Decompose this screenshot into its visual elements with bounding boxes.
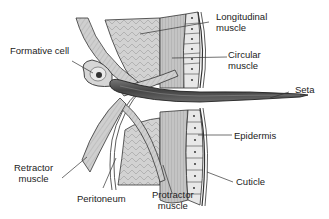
label-retractor-muscle: Retractor muscle: [14, 162, 53, 184]
label-epidermis: Epidermis: [234, 130, 276, 141]
retractor-muscle: [82, 98, 126, 172]
label-longitudinal-muscle-line1: Longitudinal: [216, 11, 267, 22]
label-cuticle: Cuticle: [236, 176, 265, 187]
label-retractor-muscle-line1: Retractor: [14, 162, 53, 173]
label-protractor-muscle: Protractor muscle: [152, 189, 194, 211]
label-peritoneum: Peritoneum: [77, 193, 126, 204]
leader-retractor: [62, 157, 87, 178]
label-circular-muscle-line1: Circular: [228, 49, 261, 60]
label-seta: Seta: [295, 84, 315, 95]
label-circular-muscle-line2: muscle: [228, 60, 261, 71]
leader-cuticle: [207, 172, 233, 182]
label-longitudinal-muscle-line2: muscle: [216, 22, 267, 33]
diagram-canvas: Formative cell Longitudinal muscle Circu…: [0, 0, 329, 219]
label-protractor-muscle-line1: Protractor: [152, 189, 194, 200]
label-longitudinal-muscle: Longitudinal muscle: [216, 11, 267, 33]
seta-anatomy-illustration: [0, 0, 329, 219]
label-retractor-muscle-line2: muscle: [14, 173, 53, 184]
label-protractor-muscle-line2: muscle: [152, 200, 194, 211]
label-circular-muscle: Circular muscle: [228, 49, 261, 71]
label-formative-cell: Formative cell: [10, 45, 69, 56]
formative-cell-nucleus: [96, 72, 102, 78]
